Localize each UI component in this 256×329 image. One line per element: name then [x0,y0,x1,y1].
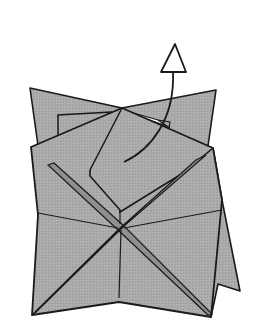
origami-diagram: Origami folding step [0,0,256,329]
front-sheet [31,108,222,317]
arrow-up-icon [161,44,186,72]
origami-figure [0,0,256,329]
